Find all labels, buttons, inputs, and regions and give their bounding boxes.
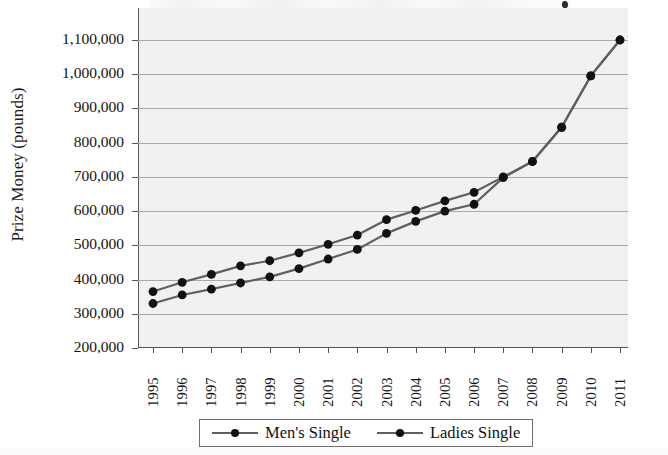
data-point: [557, 123, 566, 132]
data-point: [353, 231, 362, 240]
y-tick: 600,000: [0, 211, 132, 212]
y-tick: 800,000: [0, 143, 132, 144]
series-layer: [138, 8, 628, 348]
x-tick-label: 2005: [437, 355, 453, 407]
data-point: [265, 256, 274, 265]
x-tick-mark: [328, 348, 329, 353]
data-point: [411, 206, 420, 215]
y-tick-label: 900,000: [74, 98, 124, 116]
data-point: [324, 255, 333, 264]
y-tick: 200,000: [0, 348, 132, 349]
data-point: [149, 287, 158, 296]
data-point: [178, 278, 187, 287]
x-tick-label: 2007: [495, 355, 511, 407]
data-point: [236, 261, 245, 270]
x-tick-mark: [182, 348, 183, 353]
data-point: [324, 240, 333, 249]
x-tick-mark: [270, 348, 271, 353]
x-tick-mark: [532, 348, 533, 353]
data-point: [616, 36, 625, 45]
legend-label: Men's Single: [265, 423, 351, 443]
y-tick-label: 200,000: [74, 338, 124, 356]
x-tick-label: 1999: [262, 355, 278, 407]
x-tick-label: 2001: [320, 355, 336, 407]
y-tick-label: 500,000: [74, 235, 124, 253]
x-tick-mark: [153, 348, 154, 353]
data-point: [265, 272, 274, 281]
y-tick: 1,000,000: [0, 74, 132, 75]
x-tick-mark: [299, 348, 300, 353]
x-tick-mark: [416, 348, 417, 353]
y-axis-title: Prize Money (pounds): [0, 0, 36, 392]
data-point: [470, 200, 479, 209]
series-line: [153, 40, 620, 304]
data-point: [149, 299, 158, 308]
data-point: [528, 157, 537, 166]
y-tick-label: 600,000: [74, 201, 124, 219]
x-tick-label: 1995: [145, 355, 161, 407]
legend-item-mens-single[interactable]: Men's Single: [212, 423, 351, 443]
scan-artifact-bottom: [0, 447, 668, 455]
x-tick-label: 2006: [466, 355, 482, 407]
y-tick-label: 400,000: [74, 270, 124, 288]
data-point: [440, 207, 449, 216]
line-marker-icon: [212, 427, 258, 439]
x-tick-mark: [620, 348, 621, 353]
data-point: [499, 173, 508, 182]
y-tick: 700,000: [0, 177, 132, 178]
series-line: [153, 40, 620, 292]
x-tick-label: 1996: [174, 355, 190, 407]
legend-item-ladies-single[interactable]: Ladies Single: [377, 423, 520, 443]
x-tick-mark: [591, 348, 592, 353]
data-point: [295, 264, 304, 273]
x-tick-label: 1997: [203, 355, 219, 407]
chart-figure: Prize Money (pounds) 1,100,0001,000,0009…: [0, 0, 668, 455]
y-tick-label: 300,000: [74, 304, 124, 322]
y-tick: 500,000: [0, 245, 132, 246]
x-tick-label: 2002: [349, 355, 365, 407]
x-tick-mark: [211, 348, 212, 353]
data-point: [178, 291, 187, 300]
x-tick-mark: [357, 348, 358, 353]
data-point: [586, 72, 595, 81]
x-tick-label: 2000: [291, 355, 307, 407]
x-tick-mark: [387, 348, 388, 353]
x-tick-label: 2010: [583, 355, 599, 407]
y-tick-label: 800,000: [74, 133, 124, 151]
data-point: [470, 188, 479, 197]
x-tick-label: 2003: [379, 355, 395, 407]
x-tick-mark: [445, 348, 446, 353]
data-point: [207, 285, 216, 294]
y-tick-label: 700,000: [74, 167, 124, 185]
scan-artifact-mark: [562, 1, 568, 8]
y-tick-mark: [132, 348, 138, 349]
x-tick-label: 1998: [233, 355, 249, 407]
x-tick-label: 2011: [612, 355, 628, 407]
y-tick: 400,000: [0, 280, 132, 281]
y-tick: 1,100,000: [0, 40, 132, 41]
data-point: [440, 196, 449, 205]
y-tick: 300,000: [0, 314, 132, 315]
data-point: [207, 270, 216, 279]
x-tick-label: 2004: [408, 355, 424, 407]
data-point: [411, 217, 420, 226]
x-tick-label: 2008: [524, 355, 540, 407]
x-tick-mark: [562, 348, 563, 353]
data-point: [382, 215, 391, 224]
data-point: [236, 279, 245, 288]
data-point: [382, 229, 391, 238]
chart-legend: Men's Single Ladies Single: [199, 419, 533, 447]
data-point: [353, 245, 362, 254]
data-point: [295, 248, 304, 257]
x-tick-label: 2009: [554, 355, 570, 407]
y-tick-label: 1,100,000: [62, 30, 124, 48]
x-tick-mark: [503, 348, 504, 353]
y-tick-label: 1,000,000: [62, 64, 124, 82]
x-tick-mark: [474, 348, 475, 353]
line-marker-icon: [377, 427, 423, 439]
x-tick-mark: [241, 348, 242, 353]
legend-label: Ladies Single: [430, 423, 520, 443]
y-tick: 900,000: [0, 108, 132, 109]
